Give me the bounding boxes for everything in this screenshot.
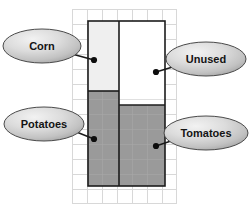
leader-dot-unused xyxy=(153,69,159,75)
region-corn[interactable] xyxy=(88,21,119,91)
leader-dot-tomatoes xyxy=(153,143,159,149)
callout-tomatoes[interactable]: Tomatoes xyxy=(164,116,248,150)
callout-label-tomatoes: Tomatoes xyxy=(180,127,231,139)
callout-potatoes[interactable]: Potatoes xyxy=(4,107,84,141)
leader-dot-corn xyxy=(91,57,97,63)
callout-label-potatoes: Potatoes xyxy=(21,118,67,130)
callout-unused[interactable]: Unused xyxy=(166,42,246,76)
callout-label-unused: Unused xyxy=(186,53,226,65)
region-unused[interactable] xyxy=(119,21,165,105)
leader-dot-potatoes xyxy=(91,136,97,142)
callout-corn[interactable]: Corn xyxy=(3,29,81,63)
figure-canvas: Corn Unused Potatoes Tomatoes xyxy=(0,0,249,216)
garden-plot-diagram: Corn Unused Potatoes Tomatoes xyxy=(0,0,249,216)
callout-label-corn: Corn xyxy=(29,40,55,52)
